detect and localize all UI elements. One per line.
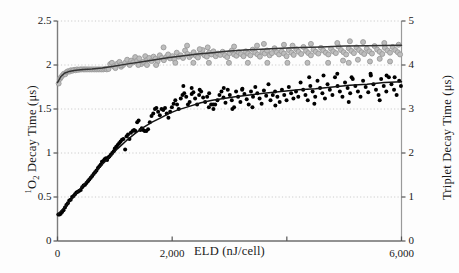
data-point [355, 57, 360, 62]
data-point [359, 95, 363, 99]
data-point [333, 51, 338, 56]
data-point [269, 51, 274, 56]
data-point [369, 51, 374, 56]
data-point [379, 77, 383, 81]
data-point [232, 44, 237, 49]
data-point [377, 56, 382, 61]
data-point [265, 60, 270, 65]
data-point [261, 41, 266, 46]
data-point [182, 91, 186, 95]
data-point [384, 89, 388, 93]
data-point [320, 91, 324, 95]
data-point [273, 103, 277, 107]
data-point [356, 89, 360, 93]
data-point [296, 95, 300, 99]
y-axis-right-title: Triplet Decay Time (μs) [440, 43, 455, 233]
data-point [260, 102, 264, 106]
data-point [374, 88, 378, 92]
data-point [217, 93, 221, 97]
data-point [341, 58, 346, 63]
data-point [326, 82, 330, 86]
data-point [207, 105, 211, 109]
data-point [282, 93, 286, 97]
data-point [326, 52, 331, 57]
data-point [271, 93, 275, 97]
data-point [223, 101, 227, 105]
data-point [306, 98, 310, 102]
y-axis-left-title-superscript: 1 [23, 189, 33, 193]
y-axis-left-title-subscript: 2 [31, 175, 41, 179]
data-point [340, 95, 344, 99]
data-point [382, 84, 386, 88]
data-point [144, 63, 149, 68]
data-point [211, 107, 215, 111]
y-left-tick-2.5: 2.5 [18, 14, 52, 26]
data-point [248, 53, 253, 58]
data-point [316, 79, 320, 83]
data-point [369, 72, 373, 76]
data-point [398, 52, 403, 57]
data-point [335, 72, 339, 76]
data-point [245, 60, 250, 65]
data-point [193, 96, 197, 100]
data-point [313, 95, 317, 99]
data-point [181, 84, 185, 88]
data-point [377, 93, 381, 97]
data-point [266, 82, 270, 86]
data-point [219, 89, 223, 93]
data-point [289, 91, 293, 95]
data-point [262, 89, 266, 93]
data-point [156, 110, 160, 114]
data-point [255, 43, 260, 48]
data-point [230, 107, 234, 111]
data-point [308, 41, 313, 46]
y-right-tick-5: 5 [409, 14, 443, 26]
data-point [291, 52, 296, 57]
data-point [299, 52, 304, 57]
data-point [385, 74, 389, 78]
data-point [166, 116, 170, 120]
data-point [185, 43, 190, 48]
data-point [287, 85, 291, 89]
data-point [245, 97, 249, 101]
data-point [392, 88, 396, 92]
data-point [222, 86, 226, 90]
data-point [241, 54, 246, 59]
y-right-tick-4: 4 [409, 58, 443, 70]
data-point [347, 100, 351, 104]
data-point [249, 89, 253, 93]
data-point [281, 42, 286, 47]
data-point [205, 45, 210, 50]
data-point [291, 96, 295, 100]
data-point [264, 94, 268, 98]
series-singlet-oxygen-points [56, 72, 403, 217]
data-point [308, 53, 313, 58]
data-point [191, 90, 195, 94]
data-point [253, 85, 257, 89]
data-point [361, 40, 366, 45]
data-point [322, 74, 326, 78]
data-point [170, 105, 174, 109]
data-point [338, 89, 342, 93]
y-axis-left-title: 1O2 Decay Time (μs) [23, 44, 42, 234]
data-point [388, 50, 393, 55]
figure-root: 00.511.522.5 012345 02,0006,000 1O2 Deca… [0, 0, 459, 273]
data-point [188, 100, 192, 104]
data-point [250, 105, 254, 109]
data-point [308, 84, 312, 88]
data-point [230, 98, 234, 102]
data-point [257, 54, 262, 59]
data-point [361, 79, 365, 83]
y-right-tick-1: 1 [409, 190, 443, 202]
y-axis-left-title-element: O [25, 180, 39, 189]
data-point [323, 96, 327, 100]
data-point [330, 93, 334, 97]
data-point [173, 60, 178, 65]
y-right-tick-3: 3 [409, 102, 443, 114]
data-point [234, 89, 238, 93]
data-point [137, 118, 141, 122]
data-point [121, 137, 125, 141]
data-point [268, 98, 272, 102]
data-point [226, 60, 231, 65]
data-point [346, 60, 351, 65]
